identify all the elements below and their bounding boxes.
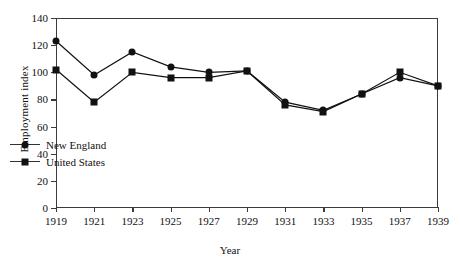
x-tick-label: 1925 — [160, 216, 182, 227]
x-tick — [438, 207, 439, 212]
data-point — [129, 69, 136, 76]
data-point — [91, 99, 98, 106]
data-point — [282, 101, 289, 108]
data-point — [244, 67, 251, 74]
data-point — [167, 74, 174, 81]
data-point — [91, 72, 98, 79]
x-tick-label: 1931 — [274, 216, 296, 227]
y-tick-label: 100 — [32, 67, 49, 78]
x-tick-label: 1923 — [121, 216, 143, 227]
series-line-1 — [56, 70, 438, 112]
data-point — [53, 38, 60, 45]
x-tick-label: 1939 — [427, 216, 449, 227]
series-line-0 — [56, 41, 438, 110]
x-tick-label: 1933 — [312, 216, 334, 227]
x-axis-title: Year — [0, 244, 460, 256]
data-point — [358, 91, 365, 98]
employment-index-chart: Employment index 020406080100120140 1919… — [0, 0, 460, 272]
square-marker-icon — [10, 157, 40, 167]
y-tick-label: 80 — [37, 94, 48, 105]
y-tick-label: 0 — [43, 203, 49, 214]
circle-marker-icon — [10, 140, 40, 150]
data-point — [396, 69, 403, 76]
data-point — [320, 108, 327, 115]
legend-label: New England — [46, 139, 106, 151]
legend-item-united-states: United States — [10, 153, 106, 170]
x-tick-label: 1937 — [389, 216, 411, 227]
data-point — [435, 82, 442, 89]
data-point — [167, 63, 174, 70]
data-point — [205, 74, 212, 81]
data-point — [53, 66, 60, 73]
series-lines — [56, 18, 438, 208]
x-tick-label: 1935 — [351, 216, 373, 227]
y-tick-label: 120 — [32, 40, 49, 51]
legend-label: United States — [46, 156, 105, 168]
chart-legend: New England United States — [10, 136, 106, 170]
y-tick-label: 60 — [37, 121, 48, 132]
legend-item-new-england: New England — [10, 136, 106, 153]
y-tick-label: 140 — [32, 13, 49, 24]
x-tick-label: 1921 — [83, 216, 105, 227]
y-tick-label: 20 — [37, 175, 48, 186]
x-tick-label: 1919 — [45, 216, 67, 227]
x-tick-label: 1929 — [236, 216, 258, 227]
data-point — [129, 48, 136, 55]
plot-area: 020406080100120140 191919211923192519271… — [56, 18, 438, 208]
x-tick-label: 1927 — [198, 216, 220, 227]
